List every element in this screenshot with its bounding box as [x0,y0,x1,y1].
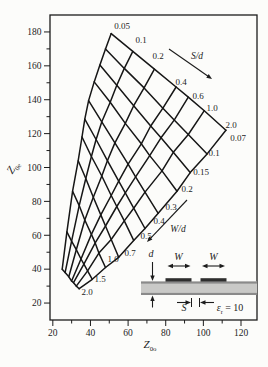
sd-direction-arrow-head [206,74,212,79]
slab-top-edge [141,282,257,284]
x-axis-title: Z0o [128,339,172,353]
y-tick-label: 80 [32,197,42,207]
w-arrow-left-head [185,264,191,268]
x-tick-label: 80 [161,328,171,338]
permittivity-value: = 10 [223,302,244,313]
sd-direction-arrow-shaft [169,49,210,77]
wd-arc-label: 1.5 [94,274,106,284]
sd-curve-label: 0.05 [114,21,130,31]
wd-arc-0.2 [94,82,177,191]
wd-arc-label: 2.0 [81,287,93,297]
wd-arrow-label: W/d [170,224,186,234]
y-tick-label: 140 [27,95,42,105]
sd-curve-label: 0.2 [152,51,163,61]
sd-curve-0.1 [65,51,133,272]
y-tick-label: 20 [32,298,42,308]
inset-s-label: S [177,303,191,313]
sd-curve-label: 2.0 [225,120,237,130]
w-arrow-right-head [220,264,226,268]
x-axis-subscript: 0o [150,345,157,352]
sd-curve-label: 0.6 [192,91,204,101]
wd-arc-label: 0.07 [230,133,246,143]
x-tick-label: 40 [86,328,96,338]
y-tick-label: 60 [32,231,42,241]
x-tick-label: 120 [234,328,249,338]
x-tick-label: 100 [196,328,211,338]
wd-arc-1 [73,191,106,267]
wd-arc-label: 0.2 [181,184,192,194]
wd-arc-label: 0.7 [124,248,136,258]
wd-arc-label: 1.0 [107,254,119,264]
slab-bottom-edge [141,293,257,295]
w-arrow-right-head [202,264,208,268]
x-tick-label: 20 [48,328,58,338]
strip-conductor-left [166,278,192,281]
y-tick-label: 40 [32,264,42,274]
inset-w-label-right: W [205,252,222,262]
strip-conductor-right [201,278,227,281]
inset-d-label: d [144,249,158,259]
x-tick-label: 60 [123,328,133,338]
sd-curve-label: 0.4 [175,77,187,87]
y-tick-label: 160 [27,61,42,71]
wd-arc-0.4 [85,119,145,228]
wd-arc-label: 0.15 [193,167,209,177]
y-tick-label: 100 [27,163,42,173]
wd-arc-label: 0.1 [208,148,219,158]
d-arrow-top-head [150,276,154,282]
y-tick-label: 120 [27,129,42,139]
sd-curve-label: 0.1 [135,35,146,45]
inset-permittivity-label: εr = 10 [206,303,254,315]
y-tick-label: 180 [27,27,42,37]
coupled-stripline-impedance-figure: 20406080100120204060801001201401601800.0… [0,0,268,367]
sd-arrow-label: S/d [191,51,203,61]
sd-curve-label: 1.0 [206,103,218,113]
wd-arc-0.7 [78,161,119,258]
w-arrow-left-head [168,264,174,268]
d-arrow-bottom-head [150,296,154,302]
s-arrow-right-head [200,300,206,304]
wd-arc-label: 0.3 [165,202,177,212]
inset-w-label-left: W [170,252,187,262]
